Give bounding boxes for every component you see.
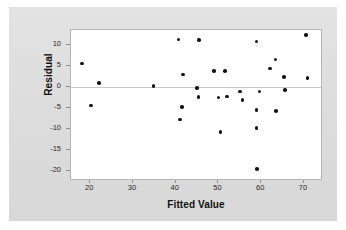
data-point: [97, 81, 101, 85]
y-tick-label: -5: [35, 103, 61, 111]
data-point: [181, 73, 185, 77]
residual-plot-screenshot: Residual Fitted Value 1050-5-10-15-20 20…: [0, 0, 346, 230]
x-tick-label: 60: [249, 184, 271, 192]
y-tick-label: -10: [35, 124, 61, 132]
x-tick-label: 50: [206, 184, 228, 192]
data-point: [268, 67, 272, 71]
plot-area: [70, 29, 322, 180]
x-tick-label: 20: [78, 184, 100, 192]
data-point: [217, 96, 221, 100]
data-point: [225, 95, 229, 99]
data-point: [219, 130, 223, 134]
x-tick-label: 40: [164, 184, 186, 192]
data-point: [197, 95, 201, 99]
data-point: [274, 109, 278, 113]
x-axis-title: Fitted Value: [70, 199, 322, 210]
data-point: [274, 58, 278, 62]
x-tick-label: 30: [121, 184, 143, 192]
data-point: [177, 38, 181, 42]
data-point: [282, 75, 286, 79]
y-tick-label: -15: [35, 145, 61, 153]
data-point: [197, 38, 201, 42]
data-point: [152, 84, 156, 88]
data-point: [238, 90, 242, 94]
y-tick-label: 0: [35, 82, 61, 90]
data-point: [223, 69, 227, 73]
data-point: [255, 126, 259, 130]
data-point: [255, 40, 259, 44]
data-point: [195, 86, 199, 90]
y-tick-label: -20: [35, 166, 61, 174]
data-point: [89, 104, 93, 108]
x-tick-label: 70: [292, 184, 314, 192]
data-point: [80, 62, 84, 66]
data-point: [241, 98, 245, 102]
data-point: [255, 167, 259, 171]
data-point: [306, 76, 310, 80]
data-point: [283, 88, 287, 92]
data-point: [178, 118, 182, 122]
figure-panel: Residual Fitted Value 1050-5-10-15-20 20…: [9, 7, 337, 221]
data-point: [304, 33, 308, 37]
data-point: [258, 90, 262, 94]
data-point: [255, 108, 259, 112]
y-tick-label: 10: [35, 40, 61, 48]
data-point: [180, 105, 184, 109]
data-point: [212, 69, 216, 73]
y-tick-label: 5: [35, 61, 61, 69]
